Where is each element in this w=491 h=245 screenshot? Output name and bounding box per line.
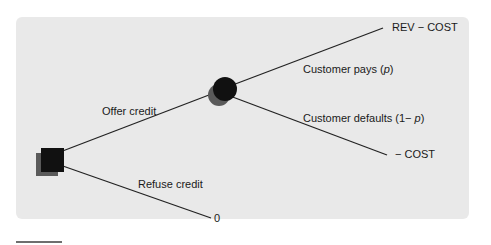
label-text: ) [421, 112, 425, 124]
decision-node-icon [36, 148, 64, 176]
payoff-refuse: 0 [214, 213, 220, 224]
chance-node-icon [208, 77, 237, 106]
branch-offer-credit [60, 90, 222, 152]
label-offer-credit: Offer credit [102, 106, 156, 117]
label-customer-defaults: Customer defaults (1− p) [303, 113, 424, 124]
payoff-customer-defaults: − COST [395, 149, 435, 160]
label-text: Customer pays ( [303, 63, 384, 75]
branch-refuse-credit [60, 165, 211, 218]
label-refuse-credit: Refuse credit [138, 179, 203, 190]
label-text: ) [390, 63, 394, 75]
label-customer-pays: Customer pays (p) [303, 64, 394, 75]
payoff-customer-pays: REV − COST [392, 22, 458, 33]
branch-customer-defaults [230, 96, 387, 155]
footer-rule [16, 241, 62, 243]
label-text: Customer defaults (1− [303, 112, 415, 124]
branch-customer-pays [230, 28, 383, 86]
